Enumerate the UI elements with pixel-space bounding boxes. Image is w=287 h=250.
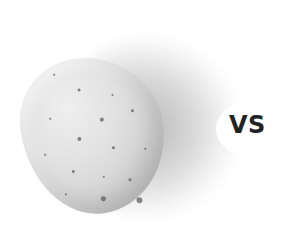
potato-speck — [128, 178, 131, 181]
potato-speck — [72, 170, 75, 173]
potato-speck — [77, 88, 80, 91]
potato-speck — [65, 193, 67, 195]
potato-speck — [144, 148, 146, 150]
potato-speck — [111, 94, 113, 96]
potato-speck — [101, 196, 107, 202]
potato-speck — [112, 146, 115, 149]
potato-speck — [77, 137, 82, 142]
image-stage: VS — [0, 0, 287, 250]
potato-speck — [103, 176, 105, 178]
potato-speck — [44, 154, 46, 156]
potato-speck — [100, 117, 105, 122]
potato-speck — [49, 118, 51, 120]
potato-speck — [53, 74, 55, 76]
potato-speck — [131, 109, 134, 112]
vs-label: VS — [229, 113, 266, 137]
